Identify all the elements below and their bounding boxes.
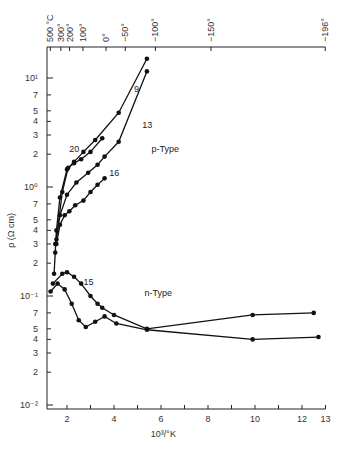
x-tick-label: 13 [320,414,330,424]
y-tick-label: 3 [33,239,38,249]
data-point [145,327,150,332]
data-point [81,198,86,203]
data-point [116,139,121,144]
data-point [95,301,100,306]
y-tick-label: 3 [33,348,38,358]
data-point [311,311,316,316]
y-tick-label: 5 [33,215,38,225]
x-tick-label: 10 [250,414,260,424]
data-point [102,176,107,181]
data-point [102,314,107,319]
data-point [88,150,93,155]
data-point [93,138,98,143]
data-point [250,313,255,318]
data-point [88,294,93,299]
y-axis-label: ρ (Ω cm) [6,213,16,248]
y-tick-label: 4 [33,334,38,344]
data-point [72,161,77,166]
data-point [51,281,56,286]
data-point [74,180,79,185]
annotation-label: p-Type [152,144,180,154]
top-tick-label: −196° [320,18,330,42]
annotation-label: 13 [142,120,152,130]
data-point [67,209,72,214]
data-point [114,321,119,326]
data-point [65,192,70,197]
series-line-15lower [51,284,319,340]
y-tick-label: 2 [33,258,38,268]
y-tick-label: 2 [33,367,38,377]
y-tick-label: 4 [33,116,38,126]
annotation-label: 20 [69,144,79,154]
y-tick-label: 5 [33,106,38,116]
y-tick-label: 10¹ [25,73,38,83]
data-point [79,157,84,162]
y-tick-label: 4 [33,225,38,235]
x-tick-label: 12 [297,414,307,424]
annotation-label: 9 [134,84,139,94]
data-point [86,170,91,175]
x-axis-label: 10³/°K [151,429,176,439]
data-point [145,57,150,62]
y-tick-label: 7 [33,308,38,318]
y-tick-label: 5 [33,324,38,334]
y-tick-label: 10⁻¹ [20,291,38,301]
data-point [100,136,105,141]
y-tick-label: 10⁰ [24,182,38,192]
data-point [88,190,93,195]
data-point [116,110,121,115]
x-tick-label: 8 [205,414,210,424]
annotation-label: 16 [109,168,119,178]
data-point [316,335,321,340]
data-point [62,287,67,292]
data-point [145,69,150,74]
data-point [52,271,57,276]
data-point [72,275,77,280]
data-point [48,289,53,294]
data-point [84,325,89,330]
data-point [93,319,98,324]
x-tick-label: 2 [64,414,69,424]
data-point [95,182,100,187]
data-point [81,150,86,155]
top-tick-label: −100° [150,18,160,42]
top-tick-label: 200° [65,23,75,42]
data-point [60,190,65,195]
top-tick-label: 0° [101,33,111,42]
data-point [66,166,71,171]
y-tick-label: 2 [33,149,38,159]
top-tick-label: −150° [206,18,216,42]
data-point [54,242,59,247]
data-point [69,301,74,306]
series-line-13 [55,71,147,244]
data-point [60,271,65,276]
data-point [73,203,78,208]
x-tick-label: 4 [111,414,116,424]
data-point [112,313,117,318]
data-point [62,213,67,218]
data-point [250,337,255,342]
resistivity-chart: 246810121310³/°K10⁻²2345710⁻¹2345710⁰234… [0,0,349,449]
data-point [76,318,81,323]
annotation-label: 15 [83,277,93,287]
top-tick-label: −50° [120,23,130,42]
y-tick-label: 7 [33,90,38,100]
data-point [100,305,105,310]
y-tick-label: 10⁻² [20,400,38,410]
data-point [58,222,63,227]
x-tick-label: 6 [158,414,163,424]
data-point [102,154,107,159]
y-tick-label: 3 [33,130,38,140]
y-tick-label: 7 [33,199,38,209]
data-point [53,250,58,255]
data-point [65,270,70,275]
annotation-label: n-Type [145,288,173,298]
data-point [95,162,100,167]
top-tick-label: 500 °C [45,14,55,42]
data-point [55,281,60,286]
top-tick-label: 100° [78,23,88,42]
